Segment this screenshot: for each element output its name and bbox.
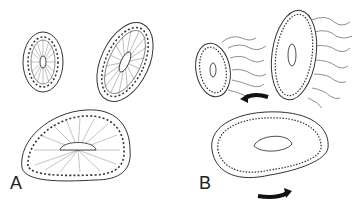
rotation-arrow-upper <box>245 95 268 98</box>
panel-label-a: A <box>10 174 22 192</box>
panel-a-small-cyst <box>23 32 63 92</box>
panel-b-tall-cyst <box>266 7 352 108</box>
rotation-arrow-lower <box>258 193 287 197</box>
panel-b-small-cyst <box>192 37 266 100</box>
panel-b-large-cyst <box>212 112 329 178</box>
panel-a-large-cyst <box>22 110 131 181</box>
panel-a-medium-cyst <box>85 14 164 110</box>
panel-label-b: B <box>199 174 211 192</box>
rotation-arrow-lower-head <box>284 188 292 198</box>
diagram-canvas <box>0 0 359 207</box>
